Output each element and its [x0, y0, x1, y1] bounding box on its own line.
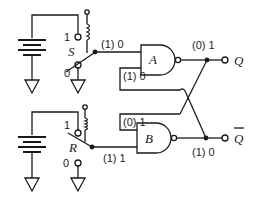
switch-r-pos0-label: 0: [63, 157, 69, 169]
qbar-value: (1) 0: [192, 146, 215, 158]
coil-icon: [85, 118, 88, 130]
gate-a: A: [141, 45, 181, 75]
output-q-label: Q: [234, 53, 244, 68]
output-terminal-icon: [222, 135, 228, 141]
output-terminal-icon: [222, 57, 228, 63]
ground-icon: [25, 80, 39, 93]
output-qbar-label: Q: [234, 131, 244, 146]
inverter-bubble-icon: [175, 57, 180, 62]
switch-r-label: R: [68, 140, 77, 155]
switch-s-pos1-label: 1: [64, 31, 70, 43]
ground-icon: [25, 178, 39, 191]
coil-icon: [87, 24, 90, 40]
inverter-bubble-icon: [171, 135, 176, 140]
a-feedback-value: (1) 0: [123, 70, 146, 82]
gate-b-label: B: [145, 131, 153, 146]
r-line-value: (1) 1: [103, 152, 126, 164]
contact-1-icon: [75, 34, 81, 40]
ground-icon: [71, 80, 85, 93]
relay-coil-s: [85, 10, 90, 53]
switch-r[interactable]: 1 R 0: [63, 119, 92, 191]
switch-s-label: S: [68, 44, 75, 59]
q-value: (0) 1: [192, 39, 215, 51]
switch-s-pos0-label: 0: [64, 67, 70, 79]
b-feedback-value: (0) 1: [123, 116, 146, 128]
nand-gate-icon: [141, 45, 175, 75]
gate-a-label: A: [148, 52, 157, 67]
contact-1-icon: [75, 130, 81, 136]
contact-0-icon: [75, 160, 81, 166]
ground-icon: [71, 178, 85, 191]
switch-r-pos1-label: 1: [64, 119, 70, 131]
relay-coil-r: [83, 105, 88, 142]
s-line-value: (1) 0: [101, 38, 124, 50]
sr-latch-diagram: 1 S 0 (1) 0 A Q (0) 1 (1) 0 (0) 1: [0, 0, 261, 210]
switch-s[interactable]: 1 S 0: [64, 31, 94, 93]
